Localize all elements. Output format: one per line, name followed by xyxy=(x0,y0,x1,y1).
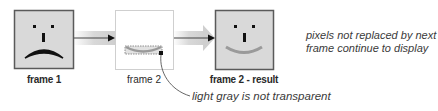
frame-2-patch xyxy=(116,11,174,70)
right-eye-icon xyxy=(252,25,255,28)
result-happy-face xyxy=(216,11,274,70)
right-eye-icon xyxy=(51,25,54,28)
left-eye-icon xyxy=(234,25,237,28)
frame-1-sad-face xyxy=(15,11,74,69)
arrow-1 xyxy=(73,31,115,45)
nose-icon xyxy=(243,33,246,42)
arrow-2 xyxy=(173,25,215,51)
frame-2-label: frame 2 xyxy=(114,74,174,85)
nose-icon xyxy=(42,33,45,42)
left-eye-icon xyxy=(33,25,36,28)
callout-note: light gray is not transparent xyxy=(192,90,331,103)
right-note-line-1: pixels not replaced by next xyxy=(306,29,436,42)
result-label: frame 2 - result xyxy=(204,74,284,85)
right-note-line-2: frame continue to display xyxy=(306,42,428,55)
frame-1-label: frame 1 xyxy=(14,74,74,85)
